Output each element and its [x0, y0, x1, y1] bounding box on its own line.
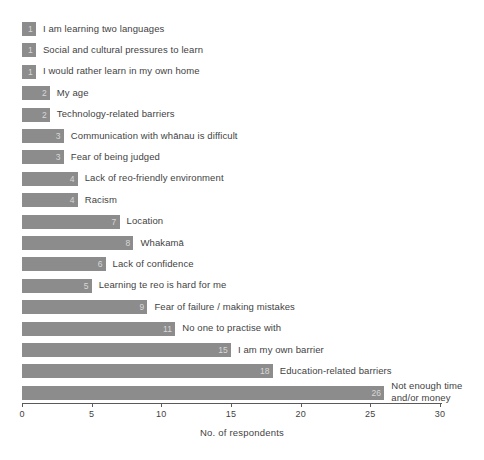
bar: 18 [22, 364, 273, 378]
bar-value-label: 6 [98, 260, 103, 269]
bar: 8 [22, 236, 133, 250]
category-label: Education-related barriers [280, 366, 392, 377]
bar-value-label: 11 [163, 324, 172, 333]
bar-row: 6Lack of confidence [22, 257, 194, 271]
bar-row: 15I am my own barrier [22, 343, 324, 357]
category-label: Location [127, 216, 164, 227]
x-axis-tick [22, 403, 23, 407]
x-axis-tick-label: 10 [156, 409, 166, 419]
bar-value-label: 2 [42, 110, 47, 119]
bar-value-label: 1 [28, 46, 33, 55]
bar: 4 [22, 193, 78, 207]
category-label: Lack of confidence [113, 259, 194, 270]
bar-value-label: 15 [218, 346, 228, 355]
bar-row: 11No one to practise with [22, 322, 281, 336]
category-label: Whakamā [140, 238, 183, 249]
category-label: Technology-related barriers [57, 109, 175, 120]
x-axis-line [22, 403, 442, 404]
bar: 1 [22, 43, 36, 57]
bar-row: 8Whakamā [22, 236, 184, 250]
bar-row: 3Communication with whānau is difficult [22, 129, 238, 143]
x-axis-tick-label: 0 [19, 409, 24, 419]
bar-row: 2Technology-related barriers [22, 108, 175, 122]
bar: 6 [22, 257, 106, 271]
bar-value-label: 26 [371, 389, 381, 398]
bar-row: 4Lack of reo-friendly environment [22, 172, 224, 186]
bar: 11 [22, 322, 175, 336]
bar: 1 [22, 22, 36, 36]
category-label: Lack of reo-friendly environment [85, 173, 224, 184]
category-label: Not enough time and/or money [391, 380, 477, 404]
bar-row: 1I am learning two languages [22, 22, 164, 36]
category-label: Fear of failure / making mistakes [154, 302, 295, 313]
x-axis-tick [231, 403, 232, 407]
bar-value-label: 4 [70, 175, 75, 184]
bar-value-label: 1 [28, 25, 33, 34]
bar-row: 3Fear of being judged [22, 150, 160, 164]
bar-value-label: 18 [260, 367, 270, 376]
bar: 3 [22, 129, 64, 143]
bar-value-label: 3 [56, 132, 61, 141]
x-axis-tick-label: 25 [365, 409, 375, 419]
bar: 26 [22, 386, 384, 400]
x-axis-tick-label: 30 [435, 409, 445, 419]
bar-chart: 1I am learning two languages1Social and … [0, 0, 484, 460]
x-axis-label: No. of respondents [0, 427, 484, 438]
bar-row: 1I would rather learn in my own home [22, 65, 200, 79]
bar: 3 [22, 150, 64, 164]
bar-row: 26Not enough time and/or money [22, 386, 477, 400]
bar-row: 2My age [22, 86, 89, 100]
x-axis-tick [301, 403, 302, 407]
bar-value-label: 9 [139, 303, 144, 312]
bar: 9 [22, 300, 147, 314]
x-axis-tick [370, 403, 371, 407]
bar: 7 [22, 215, 120, 229]
x-axis-tick-label: 5 [89, 409, 94, 419]
bar: 15 [22, 343, 231, 357]
bar-value-label: 7 [112, 217, 117, 226]
bar: 4 [22, 172, 78, 186]
x-axis-tick-label: 20 [295, 409, 305, 419]
x-axis-tick [92, 403, 93, 407]
category-label: Social and cultural pressures to learn [43, 45, 203, 56]
category-label: I am my own barrier [238, 345, 324, 356]
bar-row: 4Racism [22, 193, 117, 207]
category-label: Fear of being judged [71, 152, 160, 163]
x-axis-tick [161, 403, 162, 407]
bar: 2 [22, 86, 50, 100]
plot-area: 1I am learning two languages1Social and … [22, 18, 440, 403]
category-label: Communication with whānau is difficult [71, 131, 238, 142]
bar-value-label: 8 [126, 239, 131, 248]
category-label: Learning te reo is hard for me [99, 280, 227, 291]
category-label: I would rather learn in my own home [43, 66, 200, 77]
bar: 5 [22, 279, 92, 293]
category-label: My age [57, 88, 89, 99]
bar-row: 5Learning te reo is hard for me [22, 279, 226, 293]
x-axis-tick [440, 403, 441, 407]
bar-value-label: 2 [42, 89, 47, 98]
x-axis-tick-label: 15 [226, 409, 236, 419]
bar-row: 7Location [22, 215, 163, 229]
bar: 1 [22, 65, 36, 79]
bar-value-label: 4 [70, 196, 75, 205]
category-label: No one to practise with [182, 323, 281, 334]
bar-value-label: 5 [84, 282, 89, 291]
bar-row: 18Education-related barriers [22, 364, 392, 378]
bar: 2 [22, 108, 50, 122]
bar-value-label: 3 [56, 153, 61, 162]
bar-row: 9Fear of failure / making mistakes [22, 300, 295, 314]
bar-value-label: 1 [28, 68, 33, 77]
bar-row: 1Social and cultural pressures to learn [22, 43, 203, 57]
category-label: Racism [85, 195, 117, 206]
category-label: I am learning two languages [43, 24, 165, 35]
